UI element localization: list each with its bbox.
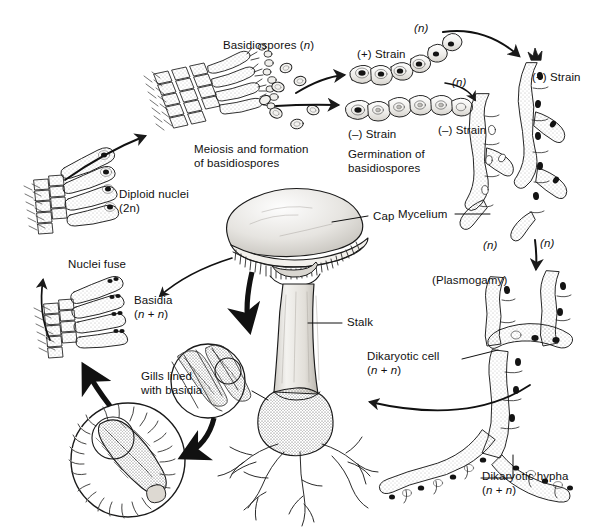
basidia-diploid xyxy=(24,148,119,234)
minus-strain-hypha xyxy=(345,95,472,121)
label-minus-strain-mycelium: (–) Strain xyxy=(438,124,486,138)
label-plus-strain-right: (+) Strain xyxy=(532,71,581,85)
label-plasmogamy: (Plasmogamy) xyxy=(432,274,507,288)
leader-gills xyxy=(252,391,268,400)
label-basidia: Basidia (n + n) xyxy=(134,294,172,321)
arrow-mushroom-to-gill-inset xyxy=(247,272,252,328)
label-minus-strain-germ: (–) Strain xyxy=(348,128,396,142)
label-basidiospores: Basidiospores (n) xyxy=(223,39,314,53)
label-cap: Cap xyxy=(373,210,394,224)
label-n-mid-right: (n) xyxy=(452,76,466,90)
plasmogamy-junction xyxy=(482,271,573,458)
label-gills-lined: Gills lined with basidia xyxy=(141,370,202,397)
mushroom-basidiocarp xyxy=(218,189,378,526)
mycelium-plus xyxy=(511,63,567,241)
arrow-gill-inset-to-basidium-inset xyxy=(184,418,214,456)
basidium-closeup-inset xyxy=(69,403,185,518)
label-n-left-bottom: (n) xyxy=(483,239,497,253)
arrow-mushroom-to-basidia xyxy=(160,258,232,296)
label-meiosis: Meiosis and formation of basidiospores xyxy=(194,143,309,170)
label-stalk: Stalk xyxy=(347,316,373,330)
label-dikaryotic-hypha: Dikaryotic hypha (n + n) xyxy=(482,470,569,497)
label-dikaryotic-cell: Dikaryotic cell (n + n) xyxy=(367,350,439,377)
arrow-basidiospores-to-minus xyxy=(276,105,338,106)
basidia-dikaryotic xyxy=(34,276,128,358)
label-n-top-right: (n) xyxy=(414,22,428,36)
label-plus-strain-top: (+) Strain xyxy=(357,48,406,62)
label-nuclei-fuse: Nuclei fuse xyxy=(68,258,126,272)
label-germination: Germination of basidiospores xyxy=(348,148,425,175)
label-diploid-nuclei: Diploid nuclei (2n) xyxy=(119,188,189,215)
arrow-mycelium-to-plasmogamy xyxy=(535,240,536,269)
basidia-cluster-meiosis xyxy=(144,44,278,130)
label-n-right-bottom: (n) xyxy=(540,237,554,251)
life-cycle-figure: Basidiospores (n) (+) Strain (n) (n) (+)… xyxy=(0,0,594,532)
arrow-basidium-inset-to-basidia xyxy=(85,368,110,406)
label-mycelium: Mycelium xyxy=(398,208,447,222)
